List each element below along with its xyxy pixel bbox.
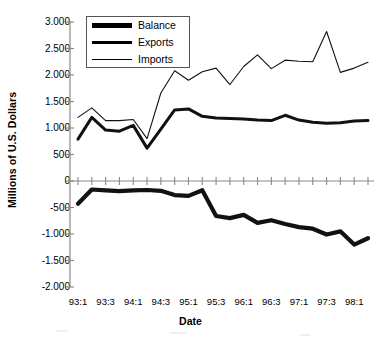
x-axis-tick-label: 98:1 bbox=[345, 297, 364, 307]
scan-artifact bbox=[300, 334, 310, 336]
x-axis-tick-label: 93:1 bbox=[69, 297, 88, 307]
x-axis-tick-label: 94:3 bbox=[152, 297, 171, 307]
legend-item-exports: Exports bbox=[87, 34, 191, 51]
chart-legend: BalanceExportsImports bbox=[86, 16, 190, 68]
legend-label: Imports bbox=[138, 54, 173, 65]
x-axis-tick-label: 95:1 bbox=[179, 297, 198, 307]
x-axis-title: Date bbox=[0, 315, 381, 327]
x-axis-tick-labels: 93:193:394:194:395:195:396:196:397:197:3… bbox=[0, 297, 381, 313]
legend-label: Exports bbox=[138, 37, 174, 48]
chart-figure: Millions of U.S. Dollars 3.0002.5002.000… bbox=[0, 0, 381, 346]
series-line-balance bbox=[78, 189, 368, 244]
x-axis-tick-label: 97:1 bbox=[290, 297, 309, 307]
legend-swatch-exports bbox=[92, 41, 132, 45]
x-axis-tick-label: 95:3 bbox=[207, 297, 226, 307]
legend-swatch-imports bbox=[92, 59, 132, 60]
x-axis-tick-label: 97:3 bbox=[317, 297, 336, 307]
scan-artifact bbox=[170, 332, 186, 334]
x-axis-tick-label: 96:3 bbox=[262, 297, 281, 307]
series-line-exports bbox=[78, 109, 368, 148]
x-axis-tick-label: 93:3 bbox=[96, 297, 115, 307]
legend-label: Balance bbox=[138, 20, 176, 31]
legend-item-imports: Imports bbox=[87, 51, 191, 68]
x-axis-tick-label: 96:1 bbox=[234, 297, 253, 307]
legend-swatch-balance bbox=[92, 23, 132, 28]
x-axis-tick-label: 94:1 bbox=[124, 297, 143, 307]
scan-artifact bbox=[56, 330, 68, 332]
legend-item-balance: Balance bbox=[87, 17, 191, 34]
